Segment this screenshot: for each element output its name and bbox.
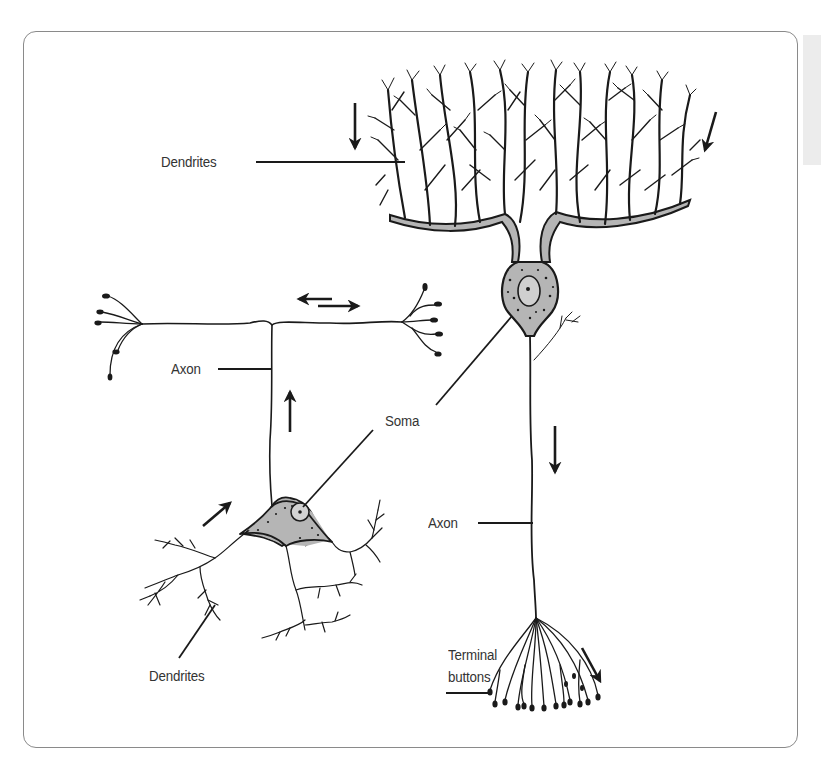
- terminal-buttons: [487, 673, 600, 712]
- label-dendrites-bottom: Dendrites: [149, 667, 205, 685]
- label-terminal-line2: buttons: [448, 668, 491, 686]
- label-axon-right: Axon: [428, 514, 458, 532]
- leader-lines: [179, 162, 533, 693]
- terminal-arbor: [490, 618, 598, 706]
- purkinje-nucleus: [518, 276, 540, 306]
- leader-soma-left: [303, 430, 373, 507]
- dendrite-trunk: [390, 200, 690, 262]
- left-neuron: [94, 283, 443, 640]
- neuron-diagram: Dendrites Axon Soma Axon Dendrites Termi…: [0, 0, 821, 761]
- purkinje-neuron: [368, 60, 700, 712]
- left-axon-vertical: [270, 325, 272, 506]
- label-terminal-line1: Terminal: [448, 646, 497, 664]
- neuron-illustration: [0, 0, 821, 761]
- label-axon-left: Axon: [171, 360, 201, 378]
- arrow-down-left-icon: [705, 112, 716, 150]
- signal-arrows: [203, 103, 716, 681]
- leader-dendrites-bottom: [179, 605, 215, 658]
- purkinje-axon: [530, 336, 536, 618]
- arrow-down-right-icon: [582, 648, 600, 681]
- leader-soma-right: [436, 316, 512, 405]
- arrow-up-right-icon: [203, 503, 230, 526]
- label-dendrites-top: Dendrites: [161, 153, 217, 171]
- label-soma: Soma: [385, 412, 419, 430]
